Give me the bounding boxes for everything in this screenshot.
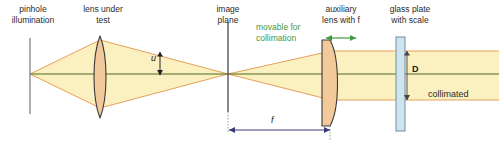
- label-pinhole-illumination: pinhole illumination: [0, 4, 66, 25]
- label-collimated: collimated: [428, 89, 469, 99]
- optical-diagram-collimation-test: pinhole illumination lens under test ima…: [0, 0, 499, 148]
- label-lens-under-test-line1: lens under: [83, 4, 123, 14]
- label-auxiliary-lens-line1: auxiliary: [325, 4, 356, 14]
- glass-plate-glyph: [396, 37, 405, 131]
- label-pinhole-line1: pinhole: [19, 4, 46, 14]
- label-glass-plate-line1: glass plate: [390, 4, 431, 14]
- label-image-plane-line1: image: [216, 4, 239, 14]
- dimension-label-f: f: [271, 115, 274, 125]
- beam-segment-imageplane-to-auxlens: [228, 51, 331, 100]
- label-auxiliary-lens: auxiliary lens with f: [309, 4, 373, 25]
- label-auxiliary-lens-line2: lens with f: [322, 15, 360, 25]
- auxiliary-lens-glyph: [322, 40, 338, 126]
- label-lens-under-test-line2: test: [96, 15, 110, 25]
- label-movable-line2: collimation: [256, 33, 296, 43]
- label-image-plane-line2: plane: [218, 15, 239, 25]
- label-glass-plate-line2: with scale: [391, 15, 428, 25]
- label-movable-for-collimation: movable for collimation: [256, 22, 318, 43]
- beam-segment-collimated: [331, 51, 499, 100]
- label-glass-plate: glass plate with scale: [378, 4, 442, 25]
- dimension-label-D: D: [412, 64, 419, 74]
- dimension-label-u: u: [151, 53, 156, 63]
- label-pinhole-line2: illumination: [12, 15, 55, 25]
- label-image-plane: image plane: [198, 4, 258, 25]
- label-lens-under-test: lens under test: [71, 4, 135, 25]
- label-movable-line1: movable for: [256, 22, 300, 32]
